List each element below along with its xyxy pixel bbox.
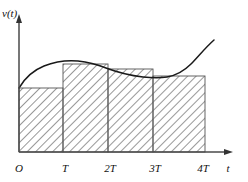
x-axis-label: t xyxy=(226,162,230,174)
tick-label-T: T xyxy=(62,162,69,174)
bar-interval-2T-3T xyxy=(108,69,153,152)
x-tick-labels: O T 2T 3T 4T xyxy=(15,162,210,174)
step-approximation-plot: v(t) t O T 2T 3T 4T xyxy=(0,0,248,182)
tick-label-origin: O xyxy=(15,162,23,174)
tick-label-2T: 2T xyxy=(104,162,117,174)
staircase-rectangles xyxy=(19,64,205,152)
x-axis-arrowhead xyxy=(224,149,233,155)
bar-interval-0-T xyxy=(19,88,63,152)
tick-label-3T: 3T xyxy=(148,162,162,174)
y-axis-label: v(t) xyxy=(2,7,18,20)
bar-interval-T-2T xyxy=(63,64,108,152)
bar-interval-3T-4T xyxy=(153,76,205,152)
figure-container: v(t) t O T 2T 3T 4T xyxy=(0,0,248,182)
tick-label-4T: 4T xyxy=(197,162,210,174)
